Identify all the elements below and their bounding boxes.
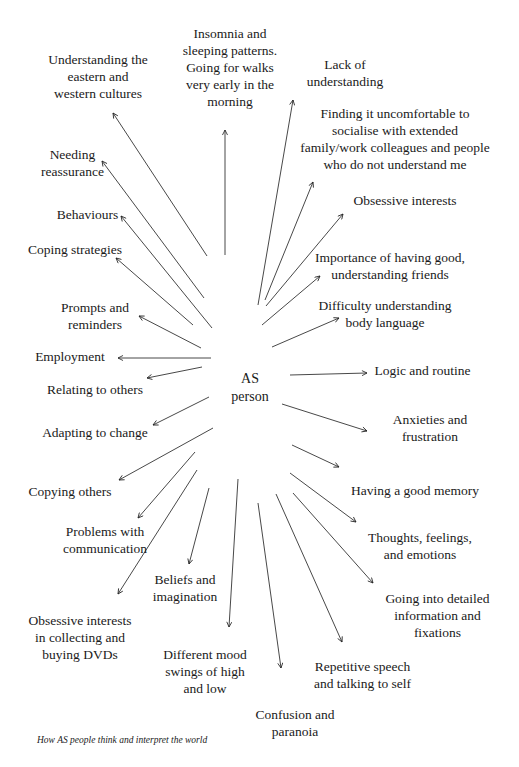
- node-coping-strategies: Coping strategies: [20, 241, 130, 258]
- arrow-good-memory: [292, 445, 339, 467]
- node-confusion-paranoia: Confusion and paranoia: [240, 706, 350, 740]
- node-relating-others: Relating to others: [35, 381, 155, 398]
- node-beliefs-imagination: Beliefs and imagination: [135, 571, 235, 605]
- arrow-anxieties: [282, 404, 367, 431]
- node-behaviours: Behaviours: [50, 206, 125, 223]
- arrow-needing-reassurance: [102, 161, 204, 298]
- node-prompts-reminders: Prompts and reminders: [50, 299, 140, 333]
- node-logic-routine: Logic and routine: [365, 362, 480, 379]
- node-adapting-change: Adapting to change: [35, 424, 155, 441]
- arrow-detailed-info: [293, 493, 373, 583]
- arrow-problems-communication: [138, 452, 195, 518]
- node-employment: Employment: [25, 348, 115, 365]
- node-good-memory: Having a good memory: [340, 482, 490, 499]
- node-mood-swings: Different mood swings of high and low: [150, 646, 260, 697]
- node-collecting-dvds: Obsessive interests in collecting and bu…: [20, 612, 140, 663]
- node-detailed-info: Going into detailed information and fixa…: [375, 590, 500, 641]
- node-thoughts-feelings: Thoughts, feelings, and emotions: [365, 529, 475, 563]
- arrow-repetitive-speech: [276, 494, 342, 642]
- center-node-as-person: AS person: [222, 370, 278, 406]
- node-lack-of-understanding: Lack of understanding: [290, 56, 400, 90]
- figure-caption: How AS people think and interpret the wo…: [37, 735, 207, 745]
- arrow-adapting-change: [153, 397, 209, 425]
- node-needing-reassurance: Needing reassurance: [25, 146, 120, 180]
- node-copying-others: Copying others: [20, 483, 120, 500]
- arrow-beliefs-imagination: [189, 488, 209, 564]
- node-obsessive-interests: Obsessive interests: [330, 192, 480, 209]
- arrow-prompts-reminders: [139, 316, 201, 348]
- node-repetitive-speech: Repetitive speech and talking to self: [300, 658, 425, 692]
- arrow-logic-routine: [290, 373, 367, 375]
- node-good-friends: Importance of having good, understanding…: [305, 249, 475, 283]
- arrow-understanding-cultures: [113, 113, 207, 256]
- node-understanding-cultures: Understanding the eastern and western cu…: [18, 51, 178, 102]
- node-insomnia: Insomnia and sleeping patterns. Going fo…: [175, 25, 285, 110]
- node-anxieties: Anxieties and frustration: [375, 411, 485, 445]
- arrow-relating-others: [147, 367, 202, 378]
- node-problems-communication: Problems with communication: [45, 523, 165, 557]
- arrow-confusion-paranoia: [258, 503, 281, 668]
- node-body-language: Difficulty understanding body language: [310, 297, 460, 331]
- node-uncomfortable-socialise: Finding it uncomfortable to socialise wi…: [295, 105, 495, 173]
